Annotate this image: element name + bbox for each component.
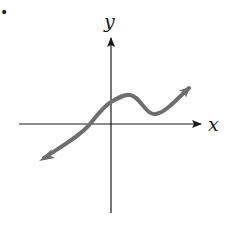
function-curve: [44, 88, 189, 158]
x-axis-label: x: [208, 113, 219, 135]
coordinate-plane: y x: [0, 0, 233, 229]
y-axis-label: y: [103, 10, 115, 32]
